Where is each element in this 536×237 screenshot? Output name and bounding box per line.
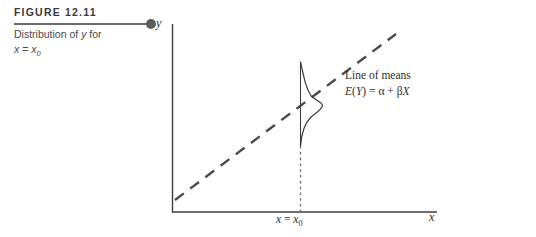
line-of-means-annotation: Line of means E(Y) = α + βX [345,67,411,99]
line-of-means-formula: E(Y) = α + βX [345,83,411,99]
x-axis-label: x [429,210,434,225]
plot-drawing [0,0,536,237]
formula-expectation-operator: E [345,85,352,97]
line-of-means-text: Line of means [345,67,411,83]
x0-tick-value-subscript: 0 [298,219,302,228]
line-of-means-dashed-line [175,34,396,200]
x0-tick-label: x = x0 [276,213,303,228]
x0-tick-equals: = [281,213,293,225]
formula-plus: + [384,85,396,97]
figure-container: FIGURE 12.11 Distribution of y for x = x… [0,0,536,237]
formula-predictor-variable: X [403,85,410,97]
y-axis-label: y [156,16,161,31]
formula-equals: = [366,85,378,97]
